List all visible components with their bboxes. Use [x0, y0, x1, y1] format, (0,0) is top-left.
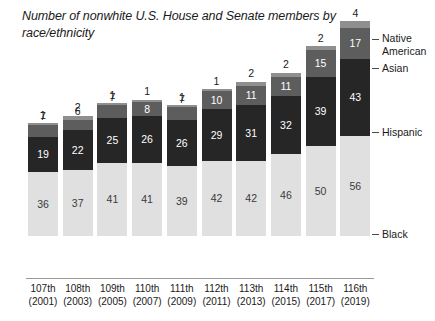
- bar-segment-hispanic[interactable]: 31: [236, 105, 266, 161]
- bar-value-label-outside: 1: [202, 76, 232, 90]
- bar-value-label: 37: [72, 198, 84, 209]
- bar-stack: 2113142: [236, 82, 266, 236]
- bar-value-label: 43: [349, 92, 361, 103]
- bar-segment-hispanic[interactable]: 43: [340, 59, 370, 136]
- legend-label-hispanic: Hispanic: [382, 126, 422, 138]
- bar-segment-hispanic[interactable]: 29: [202, 109, 232, 161]
- legend-item-native-american: Native American: [372, 32, 435, 57]
- legend-leader-line-black: [372, 234, 379, 235]
- bar-segment-native-american[interactable]: 4: [340, 21, 370, 28]
- x-axis-tick-year: (2005): [93, 296, 131, 309]
- x-axis-tick: 111th(2009): [163, 283, 201, 308]
- bar-value-label: 10: [211, 95, 223, 106]
- bar-segment-black[interactable]: 41: [132, 163, 162, 236]
- bar-group[interactable]: 172639: [167, 105, 197, 236]
- bar-segment-asian[interactable]: 17: [340, 28, 370, 58]
- x-axis-tick: 112th(2011): [198, 283, 236, 308]
- legend-label-native-american: Native American: [382, 32, 435, 57]
- bar-stack: 262237: [63, 116, 93, 236]
- bar-value-label: 15: [315, 58, 327, 69]
- bar-value-label: 26: [176, 138, 188, 149]
- bar-segment-asian[interactable]: 11: [271, 77, 301, 97]
- bar-value-label-outside: 7: [97, 92, 127, 106]
- bar-segment-hispanic[interactable]: 26: [167, 120, 197, 167]
- bar-segment-asian[interactable]: 10: [202, 91, 232, 109]
- bar-segment-black[interactable]: 37: [63, 170, 93, 236]
- bar-value-label: 11: [246, 90, 257, 101]
- x-axis-tick-congress: 108th: [59, 283, 97, 296]
- bar-segment-black[interactable]: 41: [97, 163, 127, 236]
- bar-segment-asian[interactable]: 6: [63, 120, 93, 131]
- bar-value-label: 41: [141, 194, 153, 205]
- bar-segment-black[interactable]: 46: [271, 154, 301, 236]
- bar-value-label: 22: [72, 145, 84, 156]
- bar-segment-asian[interactable]: 7: [97, 105, 127, 118]
- bar-segment-hispanic[interactable]: 39: [306, 77, 336, 147]
- bar-value-label: 42: [211, 193, 223, 204]
- bar-segment-hispanic[interactable]: 32: [271, 96, 301, 153]
- legend-item-asian: Asian: [372, 62, 408, 75]
- x-axis-tick-year: (2003): [59, 296, 97, 309]
- bar-value-label: 50: [315, 186, 327, 197]
- bar-group[interactable]: 172541: [97, 103, 127, 236]
- bar-value-label-outside: 2: [271, 59, 301, 73]
- plot-area: 1719362622371725411826411726391102942211…: [0, 0, 435, 279]
- bar-stack: 2113246: [271, 73, 301, 236]
- chart-container: Number of nonwhite U.S. House and Senate…: [0, 0, 435, 321]
- x-axis-tick-year: (2013): [232, 296, 270, 309]
- bar-segment-asian[interactable]: 8: [132, 102, 162, 116]
- bar-value-label: 39: [176, 196, 188, 207]
- bar-segment-asian[interactable]: 15: [306, 50, 336, 77]
- x-axis-tick-congress: 107th: [24, 283, 62, 296]
- x-axis-tick-year: (2001): [24, 296, 62, 309]
- x-axis-tick-year: (2009): [163, 296, 201, 309]
- bar-group[interactable]: 2153950: [306, 46, 336, 236]
- bar-segment-hispanic[interactable]: 22: [63, 130, 93, 169]
- bar-segment-asian[interactable]: 7: [167, 107, 197, 120]
- x-axis-tick-congress: 113th: [232, 283, 270, 296]
- bar-segment-asian[interactable]: 11: [236, 86, 266, 106]
- bar-value-label: 8: [144, 104, 150, 115]
- bar-value-label: 19: [37, 149, 49, 160]
- bar-segment-black[interactable]: 50: [306, 146, 336, 236]
- legend-item-hispanic: Hispanic: [372, 126, 422, 139]
- bar-segment-black[interactable]: 42: [202, 161, 232, 236]
- x-axis-tick: 108th(2003): [59, 283, 97, 308]
- legend-label-asian: Asian: [382, 62, 408, 74]
- bar-value-label: 56: [349, 181, 361, 192]
- bar-value-label: 42: [245, 193, 257, 204]
- bar-segment-hispanic[interactable]: 19: [28, 137, 58, 171]
- x-axis-tick-congress: 110th: [128, 283, 166, 296]
- bar-group[interactable]: 4174356: [340, 21, 370, 236]
- bar-stack: 2153950: [306, 46, 336, 236]
- bar-value-label: 39: [315, 106, 327, 117]
- bar-stack: 171936: [28, 123, 58, 236]
- x-axis-tick: 110th(2007): [128, 283, 166, 308]
- bar-group[interactable]: 2113246: [271, 73, 301, 236]
- bar-value-label: 32: [280, 120, 292, 131]
- bar-segment-black[interactable]: 39: [167, 166, 197, 236]
- bar-segment-black[interactable]: 56: [340, 136, 370, 236]
- x-axis-tick-year: (2015): [267, 296, 305, 309]
- bar-stack: 172639: [167, 105, 197, 236]
- x-axis-tick: 109th(2005): [93, 283, 131, 308]
- x-axis-tick-year: (2019): [336, 296, 374, 309]
- bar-group[interactable]: 182641: [132, 100, 162, 236]
- bar-group[interactable]: 171936: [28, 123, 58, 236]
- bar-group[interactable]: 2113142: [236, 82, 266, 236]
- bar-value-label-outside: 2: [236, 68, 266, 82]
- bar-value-label-outside: 2: [306, 33, 336, 47]
- bar-value-label-outside: 1: [132, 86, 162, 100]
- bar-segment-asian[interactable]: 7: [28, 125, 58, 138]
- x-axis-tick-congress: 115th: [302, 283, 340, 296]
- legend-item-black: Black: [372, 228, 408, 241]
- bar-segment-hispanic[interactable]: 26: [132, 116, 162, 163]
- bar-value-label: 25: [107, 135, 119, 146]
- bar-group[interactable]: 262237: [63, 116, 93, 236]
- legend-leader-line-asian: [372, 68, 379, 69]
- bar-group[interactable]: 1102942: [202, 89, 232, 236]
- bar-segment-black[interactable]: 42: [236, 161, 266, 236]
- bar-segment-hispanic[interactable]: 25: [97, 118, 127, 163]
- x-axis-tick-year: (2017): [302, 296, 340, 309]
- bar-segment-black[interactable]: 36: [28, 172, 58, 237]
